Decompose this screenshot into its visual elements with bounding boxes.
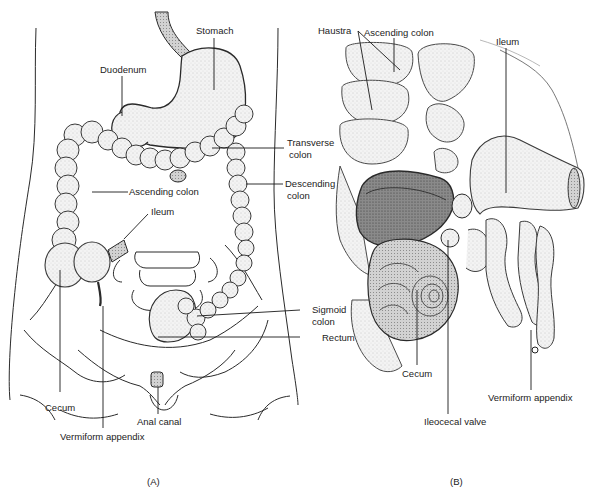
panel-b-caption: (B) bbox=[450, 476, 463, 487]
panel-b-vermiform-appendix bbox=[536, 226, 554, 348]
panel-b-ileum bbox=[470, 136, 584, 214]
label-transverse-colon-line1: Transverse bbox=[287, 137, 334, 148]
label-b-vermiform-appendix: Vermiform appendix bbox=[488, 392, 572, 403]
vermiform-appendix bbox=[98, 282, 101, 306]
label-sigmoid-colon-line2: colon bbox=[312, 316, 335, 327]
label-b-ileum: Ileum bbox=[496, 36, 519, 47]
ascending-colon bbox=[52, 139, 79, 252]
panel-b-ileocecal-valve bbox=[441, 229, 459, 247]
label-ileum: Ileum bbox=[151, 206, 174, 217]
duodenum-jejunal-flexure bbox=[170, 170, 186, 182]
anal-canal bbox=[151, 372, 163, 387]
label-b-cecum: Cecum bbox=[402, 368, 432, 379]
ileum-stub bbox=[108, 240, 128, 262]
panel-a-caption: (A) bbox=[147, 476, 160, 487]
descending-colon bbox=[212, 143, 254, 308]
label-b-ascending-colon: Ascending colon bbox=[364, 27, 434, 38]
panel-a-illustration bbox=[0, 0, 592, 492]
label-stomach: Stomach bbox=[196, 25, 234, 36]
large-intestine-figure: Stomach Duodenum Transverse colon Descen… bbox=[0, 0, 592, 492]
label-anal-canal: Anal canal bbox=[137, 416, 181, 427]
label-descending-colon-line1: Descending bbox=[285, 178, 335, 189]
label-b-ileocecal-valve: Ileocecal valve bbox=[424, 416, 486, 427]
label-b-haustra: Haustra bbox=[318, 25, 351, 36]
label-descending-colon-line2: colon bbox=[287, 190, 310, 201]
label-duodenum: Duodenum bbox=[100, 64, 146, 75]
panel-b-cecum-wall bbox=[356, 171, 453, 247]
label-rectum: Rectum bbox=[322, 332, 355, 343]
label-cecum: Cecum bbox=[45, 402, 75, 413]
label-transverse-colon-line2: colon bbox=[289, 149, 312, 160]
esophagus bbox=[155, 12, 192, 58]
panel-b-mesentery-loops bbox=[418, 44, 474, 173]
label-vermiform-appendix: Vermiform appendix bbox=[60, 431, 144, 442]
label-sigmoid-colon-line1: Sigmoid bbox=[312, 304, 346, 315]
label-ascending-colon: Ascending colon bbox=[129, 186, 199, 197]
panel-b-ileum-lumen bbox=[568, 168, 580, 208]
cecum bbox=[45, 242, 110, 287]
panel-b-illustration bbox=[336, 31, 584, 414]
